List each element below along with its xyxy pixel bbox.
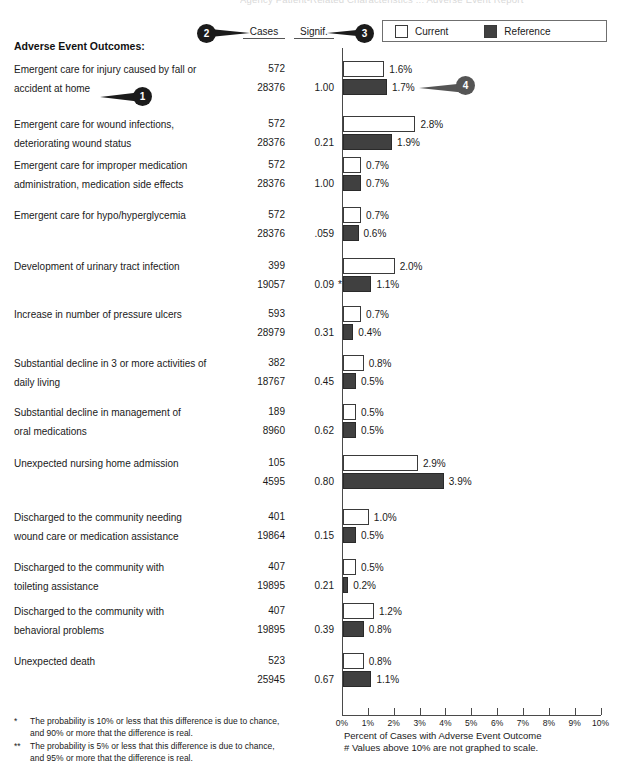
- bar-current: [343, 157, 361, 173]
- bar-value-reference: 0.8%: [369, 624, 392, 635]
- x-axis-tick-label: 3%: [413, 718, 425, 728]
- row-label-line-1: Discharged to the community with: [14, 561, 239, 575]
- row-label: Emergent care for hypo/hyperglycemia: [14, 209, 239, 223]
- signif-value: 1.00: [294, 82, 334, 93]
- footnote-mark: **: [14, 741, 30, 764]
- footnote-text: The probability is 5% or less that this …: [30, 741, 314, 764]
- footnote-line-2: and 90% or more that the difference is r…: [30, 728, 314, 740]
- row-label: Discharged to the community withbehavior…: [14, 605, 239, 637]
- x-axis-tick: [549, 708, 550, 715]
- bar-value-current: 2.0%: [400, 261, 423, 272]
- signif-value: 0.62: [294, 425, 334, 436]
- cut-off-report-title: Agency Patient-Related Characteristics .…: [240, 0, 600, 6]
- legend-label-current: Current: [415, 26, 448, 37]
- bar-current: [343, 559, 356, 575]
- cases-reference-value: 19895: [243, 580, 285, 591]
- row-label: Unexpected nursing home admission: [14, 457, 239, 471]
- bar-value-reference: 1.9%: [397, 137, 420, 148]
- cases-current-value: 401: [243, 511, 285, 522]
- callout-marker-2[interactable]: 2: [197, 24, 216, 43]
- row-label-line-1: Unexpected death: [14, 655, 239, 669]
- x-axis-tick-label: 7%: [517, 718, 529, 728]
- bar-value-current: 0.7%: [366, 309, 389, 320]
- bar-current: [343, 306, 361, 322]
- bar-reference: [343, 422, 356, 438]
- callout-marker-4[interactable]: 4: [456, 76, 475, 95]
- cases-reference-value: 28979: [243, 327, 285, 338]
- bar-value-reference: 0.5%: [361, 530, 384, 541]
- callout-marker-1[interactable]: 1: [133, 87, 152, 106]
- bar-current: [343, 509, 369, 525]
- bar-reference: [343, 225, 359, 241]
- row-label-line-2: deteriorating wound status: [14, 137, 239, 151]
- x-axis-tick: [368, 708, 369, 715]
- row-label-line-2: toileting assistance: [14, 580, 239, 594]
- cases-reference-value: 8960: [243, 425, 285, 436]
- x-axis-tick: [601, 708, 602, 715]
- row-label-line-1: Emergent care for hypo/hyperglycemia: [14, 209, 239, 223]
- bar-value-current: 1.2%: [379, 606, 402, 617]
- x-axis-tick: [523, 708, 524, 715]
- legend-label-reference: Reference: [504, 26, 550, 37]
- bar-value-current: 2.9%: [423, 458, 446, 469]
- bar-current: [343, 61, 384, 77]
- row-label: Discharged to the community needingwound…: [14, 511, 239, 543]
- bar-value-current: 1.6%: [389, 64, 412, 75]
- cases-reference-value: 18767: [243, 376, 285, 387]
- footnote-line-2: and 95% or more that the difference is r…: [30, 753, 314, 765]
- bar-reference: [343, 324, 353, 340]
- bar-current: [343, 355, 364, 371]
- row-label: Substantial decline in management oforal…: [14, 406, 239, 438]
- bar-value-reference: 0.5%: [361, 376, 384, 387]
- bar-value-current: 0.8%: [369, 358, 392, 369]
- bar-value-current: 0.5%: [361, 562, 384, 573]
- bar-value-reference: 0.4%: [358, 327, 381, 338]
- bar-value-current: 0.7%: [366, 160, 389, 171]
- bar-value-reference: 3.9%: [449, 476, 472, 487]
- cases-current-value: 189: [243, 406, 285, 417]
- signif-value: 0.67: [294, 674, 334, 685]
- bar-value-current: 1.0%: [374, 512, 397, 523]
- bar-value-reference: 0.2%: [353, 580, 376, 591]
- cases-reference-value: 19864: [243, 530, 285, 541]
- row-label-line-2: oral medications: [14, 425, 239, 439]
- bar-value-current: 0.5%: [361, 407, 384, 418]
- x-axis-tick: [575, 708, 576, 715]
- signif-value: 0.21: [294, 580, 334, 591]
- footnote-mark: *: [14, 716, 30, 739]
- row-label-line-1: Unexpected nursing home admission: [14, 457, 239, 471]
- x-axis-tick-label: 2%: [388, 718, 400, 728]
- row-label: Emergent care for wound infections,deter…: [14, 118, 239, 150]
- bar-current: [343, 207, 361, 223]
- row-label-line-1: Increase in number of pressure ulcers: [14, 308, 239, 322]
- x-axis-tick: [497, 708, 498, 715]
- signif-value: .059: [294, 228, 334, 239]
- row-label: Substantial decline in 3 or more activit…: [14, 357, 239, 389]
- legend-swatch-reference-icon: [484, 25, 497, 38]
- bar-value-current: 2.8%: [420, 119, 443, 130]
- bar-current: [343, 653, 364, 669]
- row-label-line-1: Emergent care for improper medication: [14, 159, 239, 173]
- x-axis-tick: [471, 708, 472, 715]
- cases-reference-value: 19895: [243, 624, 285, 635]
- row-label-line-2: wound care or medication assistance: [14, 530, 239, 544]
- x-axis-tick: [445, 708, 446, 715]
- signif-value: 0.80: [294, 476, 334, 487]
- cases-current-value: 382: [243, 357, 285, 368]
- bar-reference: [343, 175, 361, 191]
- cases-current-value: 572: [243, 159, 285, 170]
- row-label-line-2: administration, medication side effects: [14, 178, 239, 192]
- bar-current: [343, 455, 418, 471]
- bar-value-reference: 0.7%: [366, 178, 389, 189]
- x-axis-tick-label: 0%: [336, 718, 348, 728]
- x-axis-tick: [420, 708, 421, 715]
- adverse-event-chart-page: Agency Patient-Related Characteristics .…: [0, 0, 621, 765]
- row-label: Emergent care for improper medicationadm…: [14, 159, 239, 191]
- axis-caption-line-2: # Values above 10% are not graphed to sc…: [344, 742, 541, 754]
- cases-reference-value: 25945: [243, 674, 285, 685]
- cases-current-value: 407: [243, 561, 285, 572]
- cases-current-value: 407: [243, 605, 285, 616]
- signif-value: 0.21: [294, 137, 334, 148]
- cases-reference-value: 19057: [243, 279, 285, 290]
- callout-marker-3[interactable]: 3: [355, 24, 374, 43]
